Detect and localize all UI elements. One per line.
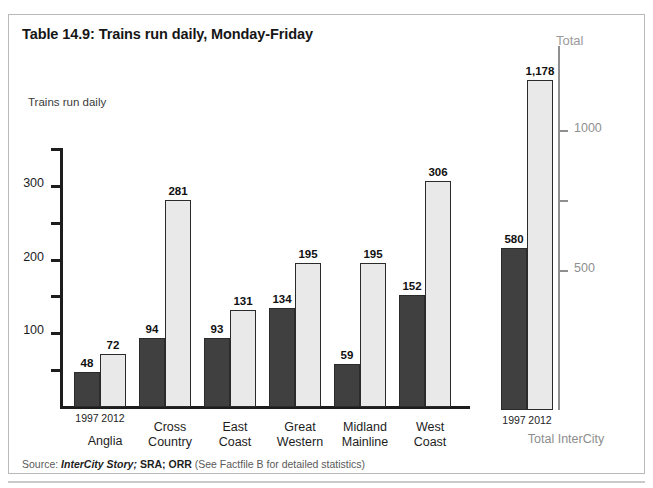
bar-value-label: 195 xyxy=(356,248,390,260)
bar-1997-anglia[interactable] xyxy=(74,372,100,407)
category-line: West xyxy=(383,420,477,435)
main-bar-chart: 100200300 487294281931311341955919515230… xyxy=(60,148,470,410)
category-label-west-coast: WestCoast xyxy=(383,420,477,450)
bar-group: 134195 xyxy=(269,149,331,407)
y-tick-label-300: 300 xyxy=(4,176,44,190)
bar-group: 4872 xyxy=(74,149,136,407)
y-tick-minor-250 xyxy=(51,222,61,225)
total-category-label: Total InterCity xyxy=(496,432,636,446)
bar-1997-east-coast[interactable] xyxy=(204,338,230,407)
bar-1997-midland-mainline[interactable] xyxy=(334,364,360,407)
total-y-tick-label-500: 500 xyxy=(574,261,595,275)
bar-value-label: 306 xyxy=(421,166,455,178)
bar-1997-west-coast[interactable] xyxy=(399,295,425,407)
y-tick-label-100: 100 xyxy=(4,323,44,337)
total-y-tick-500 xyxy=(558,270,568,272)
total-year-label-2012: 2012 xyxy=(522,414,558,426)
source-bold: SRA; ORR xyxy=(140,458,192,470)
bar-group: 152306 xyxy=(399,149,461,407)
bar-2012-midland-mainline[interactable] xyxy=(360,263,386,407)
total-bar-1997[interactable] xyxy=(501,248,527,410)
bar-value-label: 195 xyxy=(291,248,325,260)
source-note-text: (See Factfile B for detailed statistics) xyxy=(195,458,365,470)
bar-2012-cross-country[interactable] xyxy=(165,200,191,407)
bar-value-label: 94 xyxy=(135,323,169,335)
bar-2012-great-western[interactable] xyxy=(295,263,321,407)
y-axis-label: Trains run daily xyxy=(28,96,106,108)
total-y-tick-label-1000: 1000 xyxy=(574,121,602,135)
bar-value-label: 152 xyxy=(395,280,429,292)
bar-group: 93131 xyxy=(204,149,266,407)
bar-group: 59195 xyxy=(334,149,396,407)
page-title: Table 14.9: Trains run daily, Monday-Fri… xyxy=(22,26,313,42)
total-y-tick-1000 xyxy=(558,130,568,132)
bar-value-label: 131 xyxy=(226,295,260,307)
source-note: Source: InterCity Story; SRA; ORR (See F… xyxy=(22,458,365,470)
y-tick-minor-150 xyxy=(51,295,61,298)
total-bar-chart: 5001000 5801,17819972012 xyxy=(496,46,646,410)
bottom-divider xyxy=(8,481,645,483)
bar-1997-great-western[interactable] xyxy=(269,308,295,407)
bar-value-label: 281 xyxy=(161,185,195,197)
bar-value-label: 48 xyxy=(70,357,104,369)
bar-value-label: 59 xyxy=(330,349,364,361)
bar-2012-west-coast[interactable] xyxy=(425,181,451,407)
bar-1997-cross-country[interactable] xyxy=(139,338,165,407)
figure-root: Table 14.9: Trains run daily, Monday-Fri… xyxy=(0,0,653,488)
y-tick-minor-50 xyxy=(51,369,61,372)
bar-value-label: 72 xyxy=(96,339,130,351)
source-prefix: Source: xyxy=(22,458,58,470)
total-y-axis-line xyxy=(558,46,560,410)
total-bars: 5801,17819972012 xyxy=(496,46,558,410)
y-tick-200 xyxy=(51,259,63,262)
source-italic: InterCity Story; xyxy=(61,458,137,470)
total-bar-2012[interactable] xyxy=(527,80,553,410)
y-tick-minor-350 xyxy=(51,148,61,151)
y-tick-300 xyxy=(51,185,63,188)
y-tick-label-200: 200 xyxy=(4,250,44,264)
category-line: Coast xyxy=(383,435,477,450)
bar-2012-east-coast[interactable] xyxy=(230,310,256,407)
bar-2012-anglia[interactable] xyxy=(100,354,126,407)
bar-value-label: 134 xyxy=(265,293,299,305)
y-tick-100 xyxy=(51,332,63,335)
year-label-2012: 2012 xyxy=(95,412,131,424)
total-y-tick-minor-750 xyxy=(558,200,568,202)
total-bar-value-label: 1,178 xyxy=(518,65,562,77)
bar-group: 94281 xyxy=(139,149,201,407)
bar-value-label: 93 xyxy=(200,323,234,335)
